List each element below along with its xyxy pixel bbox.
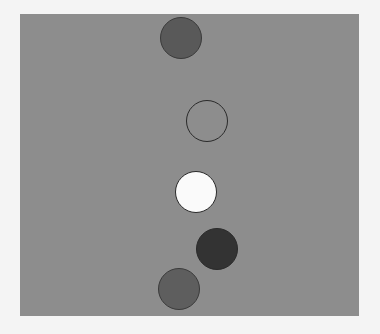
circle-2 (186, 100, 228, 142)
circle-4 (196, 228, 238, 270)
circle-5 (158, 268, 200, 310)
circle-3 (175, 171, 217, 213)
circle-1 (160, 17, 202, 59)
